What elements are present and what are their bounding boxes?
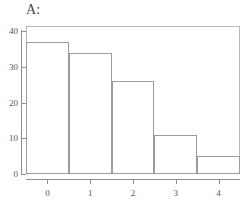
histogram-bar [154, 135, 197, 174]
x-tick-label: 2 [123, 188, 143, 198]
y-tick-label: 40 [0, 26, 18, 36]
x-tick-mark [133, 179, 134, 184]
x-tick-label: 4 [209, 188, 229, 198]
x-tick-mark [176, 179, 177, 184]
x-tick-label: 0 [37, 188, 57, 198]
x-tick-mark [219, 179, 220, 184]
histogram-bar [26, 42, 69, 174]
y-tick-mark [21, 103, 26, 104]
histogram-bar [69, 53, 112, 174]
x-tick-mark [47, 179, 48, 184]
x-tick-label: 1 [80, 188, 100, 198]
y-tick-mark [21, 138, 26, 139]
plot-area [26, 26, 240, 174]
x-tick-label: 3 [166, 188, 186, 198]
histogram-bar [112, 81, 155, 174]
y-tick-label: 30 [0, 62, 18, 72]
y-tick-label: 0 [0, 169, 18, 179]
histogram-figure: A: 010203040 01234 [0, 0, 247, 211]
page-title: A: [26, 2, 40, 18]
histogram-bar [197, 156, 240, 174]
y-tick-label: 20 [0, 98, 18, 108]
y-tick-mark [21, 31, 26, 32]
y-tick-mark [21, 67, 26, 68]
x-tick-mark [90, 179, 91, 184]
y-tick-label: 10 [0, 133, 18, 143]
y-tick-mark [21, 174, 26, 175]
